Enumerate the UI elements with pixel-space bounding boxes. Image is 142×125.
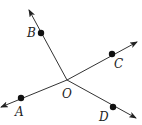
label-O: O	[62, 87, 72, 101]
label-A: A	[14, 105, 24, 119]
label-B: B	[26, 26, 36, 40]
ray-OB	[29, 10, 67, 80]
point-D	[110, 104, 116, 110]
point-B	[38, 30, 44, 36]
label-C: C	[114, 57, 123, 71]
geometry-diagram: BCADO	[0, 0, 142, 125]
point-A	[18, 95, 24, 101]
ray-OA	[1, 80, 67, 107]
ray-OC	[67, 42, 137, 80]
label-D: D	[98, 110, 109, 124]
rays-svg: BCADO	[0, 0, 142, 125]
